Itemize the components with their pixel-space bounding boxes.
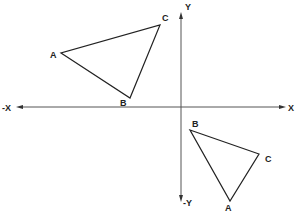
y-axis: Y -Y (179, 2, 192, 208)
vertex-label-a-original: A (50, 50, 57, 60)
x-negative-label: -X (2, 103, 11, 113)
vertex-label-a-transformed: A (225, 203, 232, 213)
vertex-label-b-original: B (120, 98, 127, 108)
triangle-original: A B C (50, 13, 169, 108)
x-positive-label: X (288, 103, 294, 113)
y-positive-label: Y (185, 2, 191, 12)
x-negative-arrow-icon (16, 105, 23, 109)
x-positive-arrow-icon (279, 105, 286, 109)
coordinate-diagram: -X X Y -Y A B C B C A (0, 0, 296, 216)
y-negative-label: -Y (183, 198, 192, 208)
triangle-transformed-shape (190, 130, 259, 201)
x-axis: -X X (2, 103, 294, 113)
vertex-label-c-original: C (162, 13, 169, 23)
vertex-label-c-transformed: C (265, 154, 272, 164)
triangle-transformed: B C A (190, 119, 272, 213)
vertex-label-b-transformed: B (192, 119, 199, 129)
y-positive-arrow-icon (179, 12, 183, 19)
triangle-original-shape (61, 25, 160, 98)
